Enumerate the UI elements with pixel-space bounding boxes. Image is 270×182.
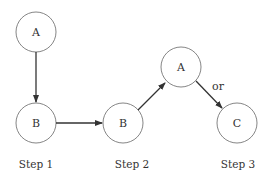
step-3-label: Step 3: [221, 158, 255, 170]
node-b2-label: B: [119, 117, 127, 130]
node-b1: B: [16, 103, 56, 143]
node-a2: A: [161, 47, 201, 87]
edge-label-or: or: [212, 80, 225, 93]
arrow-b2-a2: [138, 83, 165, 110]
node-a1: A: [16, 12, 56, 52]
node-c-label: C: [233, 117, 241, 130]
node-a1-label: A: [31, 26, 41, 39]
node-b2: B: [103, 103, 143, 143]
node-b1-label: B: [32, 117, 40, 130]
node-c: C: [217, 103, 257, 143]
node-a2-label: A: [176, 61, 186, 74]
step-1-label: Step 1: [19, 158, 53, 170]
step-2-label: Step 2: [115, 158, 149, 170]
diagram: A B B A C or Step 1 Step 2 Step 3: [0, 0, 270, 182]
